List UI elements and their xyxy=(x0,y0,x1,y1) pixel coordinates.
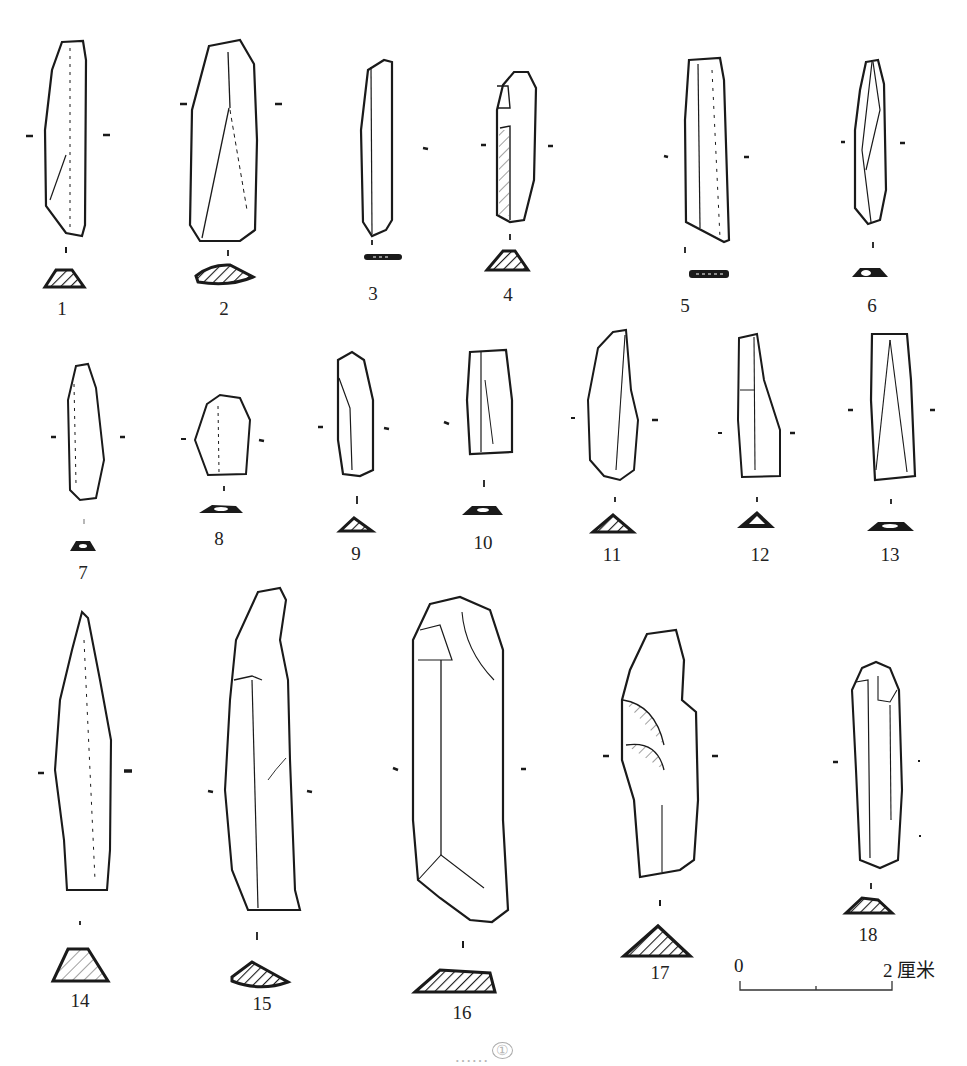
blade-18-outline-icon xyxy=(0,0,960,940)
scale-ruler-icon xyxy=(737,977,907,1017)
scale-bar: 0 2 厘米 xyxy=(737,955,937,1005)
scale-start-label: 0 xyxy=(734,955,744,977)
figure-number: 17 xyxy=(630,962,690,984)
footnote-marker: ① xyxy=(492,1042,513,1059)
figure-caption: ……① xyxy=(0,1042,967,1066)
figure-number: 16 xyxy=(432,1002,492,1024)
figure-number: 18 xyxy=(838,924,898,946)
